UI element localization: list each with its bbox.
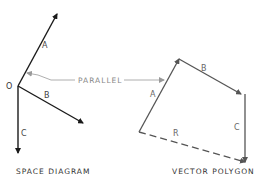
vector-polygon: A B C R VECTOR POLYGON bbox=[139, 59, 255, 176]
space-label-c: C bbox=[21, 129, 27, 138]
polygon-label-r: R bbox=[173, 129, 179, 138]
space-vector-b bbox=[18, 86, 83, 123]
space-label-b: B bbox=[44, 91, 50, 100]
parallel-label: PARALLEL bbox=[78, 76, 123, 85]
parallel-annotation: PARALLEL bbox=[27, 73, 164, 85]
polygon-label-c: C bbox=[234, 123, 240, 132]
vector-polygon-caption: VECTOR POLYGON bbox=[172, 167, 255, 176]
polygon-label-b: B bbox=[201, 64, 207, 73]
polygon-label-a: A bbox=[150, 90, 156, 99]
origin-label: O bbox=[6, 82, 13, 91]
diagram-canvas: O A B C SPACE DIAGRAM PARALLEL A B C R V… bbox=[0, 0, 272, 190]
space-diagram: O A B C SPACE DIAGRAM bbox=[6, 14, 90, 176]
polygon-vector-b bbox=[179, 59, 241, 94]
polygon-resultant-r bbox=[139, 132, 245, 162]
space-diagram-caption: SPACE DIAGRAM bbox=[16, 167, 90, 176]
space-label-a: A bbox=[42, 41, 48, 50]
polygon-vector-a bbox=[139, 59, 179, 132]
